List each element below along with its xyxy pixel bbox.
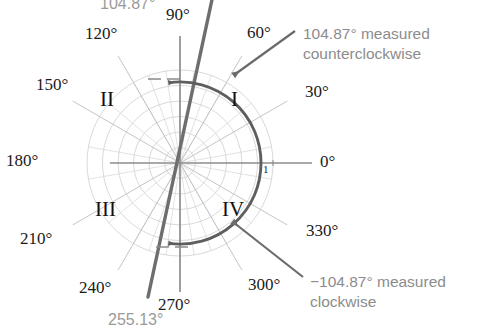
axis-label-240: 240°: [79, 279, 111, 296]
cw-annotation: −104.87° measured clockwise: [310, 272, 446, 312]
ccw-annotation-line2: counterclockwise: [303, 44, 430, 64]
terminal-ray-positive-angle-label: 104.87°: [100, 0, 155, 12]
axis-label-300: 300°: [248, 276, 280, 293]
axis-label-60: 60°: [247, 24, 271, 41]
axis-label-30: 30°: [305, 83, 329, 100]
cw-annotation-line1: −104.87° measured: [310, 272, 446, 292]
axis-label-150: 150°: [36, 76, 68, 93]
axis-label-210: 210°: [20, 230, 52, 247]
radial-tick-label-1: 1: [263, 164, 269, 175]
quadrant-label-ii: II: [100, 89, 114, 110]
quadrant-label-iv: IV: [222, 199, 244, 220]
quadrant-label-iii: III: [95, 199, 116, 220]
polar-angle-figure: 0° 30° 60° 90° 120° 150° 180° 210° 240° …: [0, 0, 485, 332]
axis-label-90: 90°: [166, 6, 190, 23]
axis-label-120: 120°: [85, 25, 117, 42]
ccw-annotation: 104.87° measured counterclockwise: [303, 24, 430, 64]
cw-annotation-leader: [233, 222, 303, 277]
axis-label-180: 180°: [6, 152, 38, 169]
axis-label-330: 330°: [306, 222, 338, 239]
ccw-annotation-line1: 104.87° measured: [303, 24, 430, 44]
terminal-ray-negative-angle-label: 255.13°: [108, 312, 163, 328]
axis-label-0: 0°: [320, 153, 335, 170]
quadrant-label-i: I: [231, 89, 238, 110]
cw-annotation-line2: clockwise: [310, 292, 446, 312]
